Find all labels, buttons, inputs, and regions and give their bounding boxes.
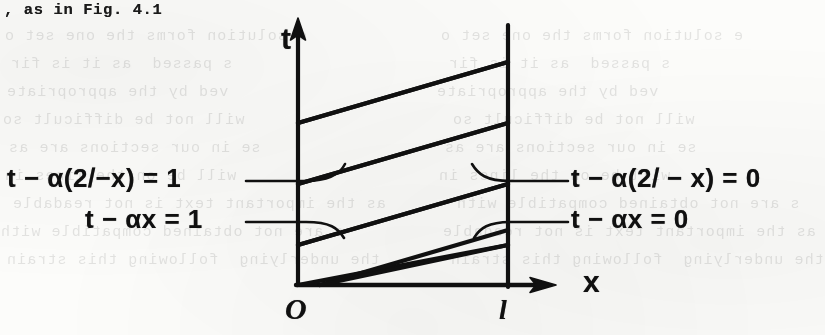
scanned-page: e solution forms the one set o s passed … [0, 0, 825, 335]
characteristic-positive-5 [320, 230, 508, 285]
characteristic-reflect-1 [298, 62, 508, 123]
equation-lower-left: t − αx = 1 [85, 204, 203, 235]
characteristic-reflect-3 [320, 245, 508, 285]
equation-upper-right: t − α(2𝑙 − x) = 0 [571, 163, 761, 194]
equation-upper-left: t − α(2𝑙−x) = 1 [7, 163, 181, 194]
x-axis-label: x [583, 265, 600, 299]
right-boundary-label: l [499, 294, 507, 326]
characteristic-reflect-4 [298, 123, 508, 184]
origin-label: O [285, 292, 307, 326]
equation-lower-right: t − αx = 0 [571, 204, 689, 235]
leader-upper-right [472, 164, 568, 181]
t-axis-label: t [281, 22, 291, 56]
